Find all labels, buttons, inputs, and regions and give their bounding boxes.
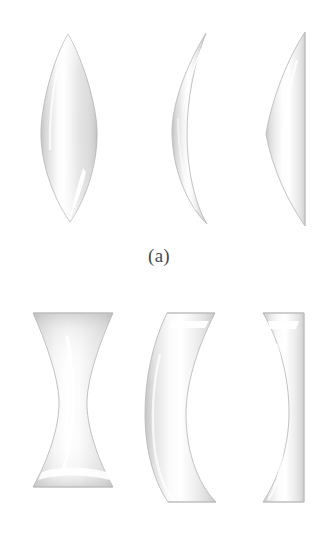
- negative-meniscus-body: [145, 313, 216, 502]
- panel-diverging-lenses: (b): [0, 280, 318, 558]
- lens-plano-concave: [263, 313, 304, 502]
- lens-positive-meniscus: [172, 33, 207, 224]
- lens-negative-meniscus: [145, 313, 216, 502]
- converging-lens-row: [0, 0, 318, 240]
- panel-converging-lenses: (a): [0, 0, 318, 280]
- plano-concave-top-highlight: [268, 321, 299, 329]
- lens-shapes-figure: (a): [0, 0, 318, 558]
- lens-plano-convex: [266, 32, 305, 226]
- converging-lenses-svg: [0, 0, 318, 240]
- plano-concave-body: [263, 313, 304, 502]
- diverging-lens-row: [0, 280, 318, 520]
- negative-meniscus-top-highlight: [170, 321, 209, 328]
- panel-caption-a: (a): [0, 245, 318, 267]
- lens-biconvex: [41, 34, 97, 222]
- lens-biconcave: [33, 313, 113, 487]
- diverging-lenses-svg: [0, 280, 318, 520]
